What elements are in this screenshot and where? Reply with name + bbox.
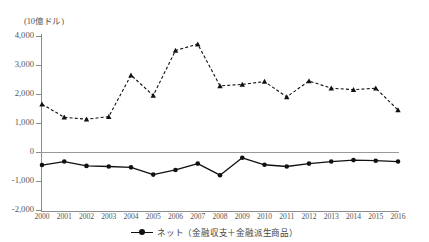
- legend-dot: [139, 229, 145, 235]
- data-point-net-series-2001: [62, 159, 67, 164]
- data-point-net-series-2014: [351, 158, 356, 163]
- x-tick-label-2009: 2009: [235, 213, 250, 221]
- data-point-gross-series-2000: [39, 101, 44, 106]
- x-tick-label-2004: 2004: [123, 213, 138, 221]
- x-tick-label-2016: 2016: [390, 213, 405, 221]
- data-point-net-series-2016: [396, 159, 401, 164]
- data-point-gross-series-2007: [195, 41, 200, 46]
- data-point-net-series-2002: [84, 164, 89, 169]
- x-tick-label-2015: 2015: [368, 213, 383, 221]
- data-point-net-series-2006: [173, 168, 178, 173]
- data-point-net-series-2008: [218, 173, 223, 178]
- x-tick-label-2006: 2006: [168, 213, 183, 221]
- data-point-net-series-2013: [329, 159, 334, 164]
- data-point-net-series-2005: [151, 172, 156, 177]
- data-point-net-series-2011: [284, 164, 289, 169]
- x-tick-label-2005: 2005: [146, 213, 161, 221]
- data-point-gross-series-2012: [306, 78, 311, 83]
- data-point-gross-series-2008: [217, 83, 222, 88]
- x-tick-label-2002: 2002: [79, 213, 94, 221]
- series-line-gross-series: [42, 44, 398, 119]
- x-tick-label-2000: 2000: [34, 213, 49, 221]
- legend-marker-net-series: [131, 228, 153, 237]
- x-tick-label-2007: 2007: [190, 213, 205, 221]
- data-point-net-series-2012: [307, 161, 312, 166]
- data-point-net-series-2010: [262, 162, 267, 167]
- data-point-gross-series-2004: [128, 72, 133, 77]
- data-point-net-series-2000: [40, 163, 45, 168]
- data-point-net-series-2009: [240, 156, 245, 161]
- series-overlay: [0, 0, 429, 242]
- data-point-net-series-2015: [373, 158, 378, 163]
- data-point-gross-series-2005: [151, 93, 156, 98]
- x-tick-label-2008: 2008: [212, 213, 227, 221]
- series-line-net-series: [42, 158, 398, 175]
- x-axis-labels: 2000200120022003200420052006200720082009…: [0, 213, 429, 225]
- chart-container: (10億ドル) 4,0003,0002,0001,0000-1,000-2,00…: [0, 0, 429, 242]
- data-point-net-series-2004: [129, 165, 134, 170]
- x-tick-label-2010: 2010: [257, 213, 272, 221]
- x-tick-label-2003: 2003: [101, 213, 116, 221]
- x-tick-label-2011: 2011: [279, 213, 294, 221]
- data-point-gross-series-2011: [284, 94, 289, 99]
- data-point-net-series-2003: [106, 164, 111, 169]
- x-tick-label-2012: 2012: [301, 213, 316, 221]
- x-tick-label-2013: 2013: [324, 213, 339, 221]
- chart-legend: ネット（金融収支＋金融派生商品）: [0, 226, 429, 238]
- data-point-gross-series-2002: [84, 117, 89, 122]
- x-tick-label-2014: 2014: [346, 213, 361, 221]
- data-point-gross-series-2010: [262, 79, 267, 84]
- data-point-net-series-2007: [195, 161, 200, 166]
- x-tick-label-2001: 2001: [57, 213, 72, 221]
- legend-label-net-series: ネット（金融収支＋金融派生商品）: [157, 226, 298, 238]
